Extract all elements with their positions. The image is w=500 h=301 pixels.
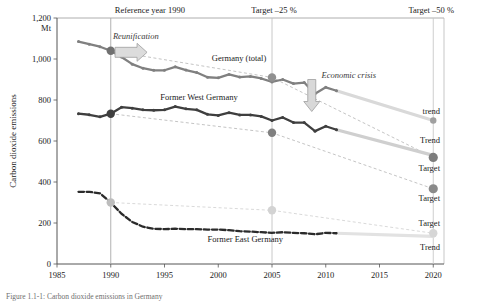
x-tick-label: 2020 <box>425 270 442 280</box>
marker-total-target-2020 <box>429 153 438 162</box>
marker-total-2005 <box>268 73 276 81</box>
series-label-former-west-germany: Former West Germany <box>160 92 238 102</box>
y-tick-label: 1,000 <box>32 54 51 64</box>
series-point <box>163 69 166 72</box>
series-point <box>206 76 209 79</box>
series-point <box>260 115 263 118</box>
series-point <box>228 111 231 114</box>
series-point <box>131 63 134 66</box>
series-point <box>77 112 80 115</box>
series-label-former-east-germany: Former East Germany <box>208 234 284 244</box>
west-germany-trend <box>337 130 434 156</box>
y-tick-label: 0 <box>47 259 51 269</box>
marker-total-1990 <box>107 47 115 55</box>
right-label-target-west: Target <box>419 193 441 203</box>
series-point <box>88 43 91 46</box>
series-point <box>281 116 284 119</box>
series-point <box>185 69 188 72</box>
series-point <box>120 106 123 109</box>
series-point <box>217 76 220 79</box>
right-label-target-east: Target <box>419 218 441 228</box>
y-tick-label: 800 <box>38 95 51 105</box>
y-tick-label: 400 <box>38 177 51 187</box>
series-line-former-west-germany <box>79 107 337 132</box>
marker-east-1990 <box>107 198 115 206</box>
series-point <box>195 71 198 74</box>
series-point <box>303 121 306 124</box>
series-point <box>142 67 145 70</box>
series-point <box>131 107 134 110</box>
series-point <box>249 75 252 78</box>
series-point <box>260 77 263 80</box>
x-tick-label: 2005 <box>264 270 281 280</box>
series-point <box>238 113 241 116</box>
series-point <box>292 121 295 124</box>
series-point <box>185 107 188 110</box>
figure-caption: Figure 1.1-1: Carbon dioxide emissions i… <box>6 292 162 301</box>
marker-east-2020 <box>429 229 437 237</box>
marker-total-trend-2020 <box>430 117 436 123</box>
marker-west-1990 <box>107 110 115 118</box>
series-point <box>206 113 209 116</box>
marker-west-target-2020 <box>429 184 438 193</box>
germany-total-trend <box>337 91 434 121</box>
series-point <box>335 128 338 131</box>
series-point <box>174 105 177 108</box>
y-axis-title: Carbon dioxide emissions <box>8 94 18 188</box>
series-point <box>292 82 295 85</box>
series-point <box>142 108 145 111</box>
series-point <box>163 108 166 111</box>
marker-east-2005 <box>268 206 276 214</box>
x-tick-label: 1990 <box>102 270 119 280</box>
x-tick-label: 1995 <box>156 270 173 280</box>
series-point <box>324 86 327 89</box>
series-point <box>99 45 102 48</box>
y-tick-label: 600 <box>38 136 51 146</box>
series-point <box>152 109 155 112</box>
series-point <box>152 69 155 72</box>
annotation-economic-crisis: Economic crisis <box>320 70 376 80</box>
series-point <box>77 40 80 43</box>
right-label-trend-east: Trend <box>420 242 441 252</box>
annotation-target-50: Target –50 % <box>408 5 454 15</box>
marker-west-2005 <box>268 129 276 137</box>
annotation-reference-year: Reference year 1990 <box>115 5 185 15</box>
series-point <box>174 65 177 68</box>
reunification-arrow-icon <box>115 43 147 61</box>
series-point <box>314 130 317 133</box>
annotation-target-25: Target –25 % <box>251 5 297 15</box>
right-label-trend-west: Trend <box>420 135 441 145</box>
series-point <box>281 78 284 81</box>
series-point <box>303 81 306 84</box>
co2-emissions-line-chart: 02004006008001,0001,200MtCarbon dioxide … <box>0 0 500 290</box>
annotation-reunification: Reunification <box>112 31 159 41</box>
y-axis-unit-label: Mt <box>41 23 52 33</box>
y-tick-label: 1,200 <box>32 13 51 23</box>
x-tick-label: 2000 <box>210 270 227 280</box>
chart-figure: 02004006008001,0001,200MtCarbon dioxide … <box>0 0 500 301</box>
series-point <box>99 115 102 118</box>
right-label-trend-total: trend <box>423 106 441 116</box>
series-point <box>217 114 220 117</box>
series-point <box>249 113 252 116</box>
series-label-germany-total: Germany (total) <box>212 53 267 63</box>
series-point <box>238 76 241 79</box>
east-germany-trend <box>337 233 434 236</box>
x-tick-label: 1985 <box>49 270 66 280</box>
series-line-former-east-germany <box>79 192 337 234</box>
series-point <box>228 73 231 76</box>
series-point <box>88 113 91 116</box>
y-tick-label: 200 <box>38 218 51 228</box>
x-tick-label: 2015 <box>371 270 388 280</box>
series-point <box>324 125 327 128</box>
x-tick-label: 2010 <box>317 270 334 280</box>
series-point <box>271 119 274 122</box>
right-label-target-total: Target <box>419 163 441 173</box>
series-point <box>335 89 338 92</box>
series-point <box>195 108 198 111</box>
